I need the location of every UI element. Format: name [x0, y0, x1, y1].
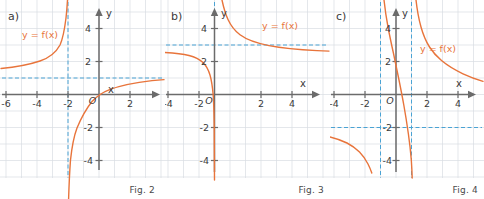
panel-label-b: b) — [171, 10, 182, 23]
x-tick-label: 4 — [289, 98, 295, 109]
y-tick-label: -4 — [84, 155, 93, 166]
x-tick-label: 2 — [424, 98, 430, 109]
x-axis-arrow-a — [152, 91, 160, 98]
curve-c — [330, 0, 483, 178]
axes-c — [331, 14, 468, 172]
plot-b: -4 -2 2 4 4 2 -2 -4 O x y y = f(x) — [165, 0, 330, 199]
plot-c: -4 -2 2 4 4 2 -2 -4 O x y y = f(x) — [330, 0, 484, 199]
origin-label: O — [89, 95, 97, 106]
x-tick-label: -6 — [1, 98, 10, 109]
y-tick-label: 2 — [201, 56, 207, 67]
axes-b — [166, 14, 312, 172]
y-tick-label: -4 — [383, 155, 392, 166]
panel-label-c: c) — [336, 10, 346, 23]
figure-panel-b: -4 -2 2 4 4 2 -2 -4 O x y y = f(x) b) Fi… — [165, 0, 330, 199]
y-axis-label: y — [221, 8, 227, 19]
y-axis-label: y — [106, 8, 112, 19]
x-axis-arrow-c — [468, 91, 476, 98]
x-tick-label: -4 — [330, 98, 339, 109]
curve-label-c: y = f(x) — [420, 43, 456, 54]
y-tick-label: 2 — [85, 56, 91, 67]
y-tick-label: 2 — [385, 56, 391, 67]
x-tick-label: -4 — [165, 98, 173, 109]
x-tick-label: -4 — [32, 98, 41, 109]
y-tick-label: -2 — [383, 122, 392, 133]
curve-b — [165, 0, 329, 180]
y-tick-label: -4 — [200, 155, 209, 166]
panel-label-a: a) — [8, 10, 19, 23]
x-tick-label: -2 — [360, 98, 369, 109]
grid-c — [330, 0, 484, 178]
x-axis-label: x — [300, 78, 306, 89]
figure-caption-a: Fig. 2 — [130, 185, 155, 195]
curve-label-b: y = f(x) — [262, 20, 298, 31]
x-axis-label: x — [456, 78, 462, 89]
origin-label: O — [205, 95, 213, 106]
figure-panel-c: -4 -2 2 4 4 2 -2 -4 O x y y = f(x) c) Fi… — [330, 0, 484, 199]
curve-label-a: y = f(x) — [22, 29, 58, 40]
x-tick-label: -2 — [194, 98, 203, 109]
figure-panel-a: -6 -4 -2 2 4 2 -2 -4 O x y y = f(x) a) F… — [0, 0, 165, 199]
plot-a: -6 -4 -2 2 4 2 -2 -4 O x y y = f(x) — [0, 0, 165, 199]
origin-label: O — [386, 95, 394, 106]
y-tick-label: -2 — [200, 122, 209, 133]
x-tick-label: 2 — [258, 98, 264, 109]
grid-a — [0, 0, 165, 178]
y-tick-label: 4 — [85, 23, 91, 34]
x-axis-arrow-b — [312, 91, 320, 98]
figure-caption-c: Fig. 4 — [453, 185, 478, 195]
x-tick-label: 4 — [455, 98, 461, 109]
y-tick-label: 4 — [201, 23, 207, 34]
x-tick-label: -2 — [63, 98, 72, 109]
x-tick-label: 2 — [127, 98, 133, 109]
figure-set: -6 -4 -2 2 4 2 -2 -4 O x y y = f(x) a) F… — [0, 0, 484, 199]
figure-caption-b: Fig. 3 — [299, 185, 324, 195]
x-axis-label: x — [108, 84, 114, 95]
y-tick-label: 4 — [385, 23, 391, 34]
grid-b — [165, 0, 330, 178]
y-axis-label: y — [402, 8, 408, 19]
y-tick-label: -2 — [84, 122, 93, 133]
